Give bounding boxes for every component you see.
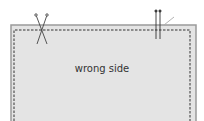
wrong-side-label: wrong side	[0, 63, 204, 74]
fabric-diagram	[0, 0, 204, 121]
